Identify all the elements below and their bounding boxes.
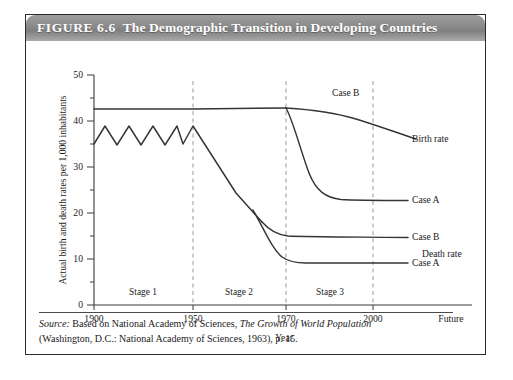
stage-label-1: Stage 1: [129, 287, 157, 297]
y-tick-label-30: 30: [73, 161, 83, 172]
source-line2: (Washington, D.C.: National Academy of S…: [39, 333, 298, 344]
source-divider: [39, 312, 453, 313]
y-tick-label-50: 50: [73, 69, 83, 80]
source-title-italic: The Growth of World Population: [240, 318, 372, 329]
curve-birth-rate-case-b: [286, 108, 416, 139]
figure-container: FIGURE 6.6 The Demographic Transition in…: [25, 14, 486, 355]
annotation-death-case-b: Case B: [412, 231, 439, 242]
y-axis-title: Actual birth and death rates per 1,000 i…: [57, 95, 68, 284]
curve-death-rate-case-b: [262, 222, 408, 238]
annotation-birth-rate: Birth rate: [412, 133, 449, 144]
figure-title: FIGURE 6.6 The Demographic Transition in…: [26, 20, 437, 36]
figure-title-bar: FIGURE 6.6 The Demographic Transition in…: [26, 15, 485, 41]
curve-death-rate-main: [94, 126, 262, 222]
figure-number: FIGURE 6.6: [37, 20, 116, 35]
x-axis-ticks: [94, 305, 373, 310]
stage-label-3: Stage 3: [316, 287, 344, 297]
curve-birth-rate-case-a: [286, 108, 408, 201]
annotation-birth-case-a: Case A: [412, 194, 440, 205]
source-prefix: Source:: [39, 318, 70, 329]
source-note: Source: Based on National Academy of Sci…: [39, 317, 469, 346]
y-tick-label-40: 40: [73, 115, 83, 126]
annotation-death-case-a: Case A: [412, 257, 440, 268]
y-tick-label-0: 0: [78, 299, 83, 310]
curve-birth-rate-main: [94, 108, 286, 109]
stage-label-2: Stage 2: [225, 287, 253, 297]
figure-title-text: The Demographic Transition in Developing…: [123, 20, 438, 35]
y-axis-minor-ticks: [90, 98, 94, 282]
y-tick-label-20: 20: [73, 207, 83, 218]
annotation-birth-case-b: Case B: [332, 87, 359, 98]
chart-plot-area: 0 10 20 30 40 50 Actual birth and death …: [26, 41, 485, 356]
source-line1-a: Based on National Academy of Sciences,: [70, 318, 240, 329]
demographic-transition-chart: 0 10 20 30 40 50 Actual birth and death …: [26, 41, 485, 356]
y-tick-label-10: 10: [73, 253, 83, 264]
